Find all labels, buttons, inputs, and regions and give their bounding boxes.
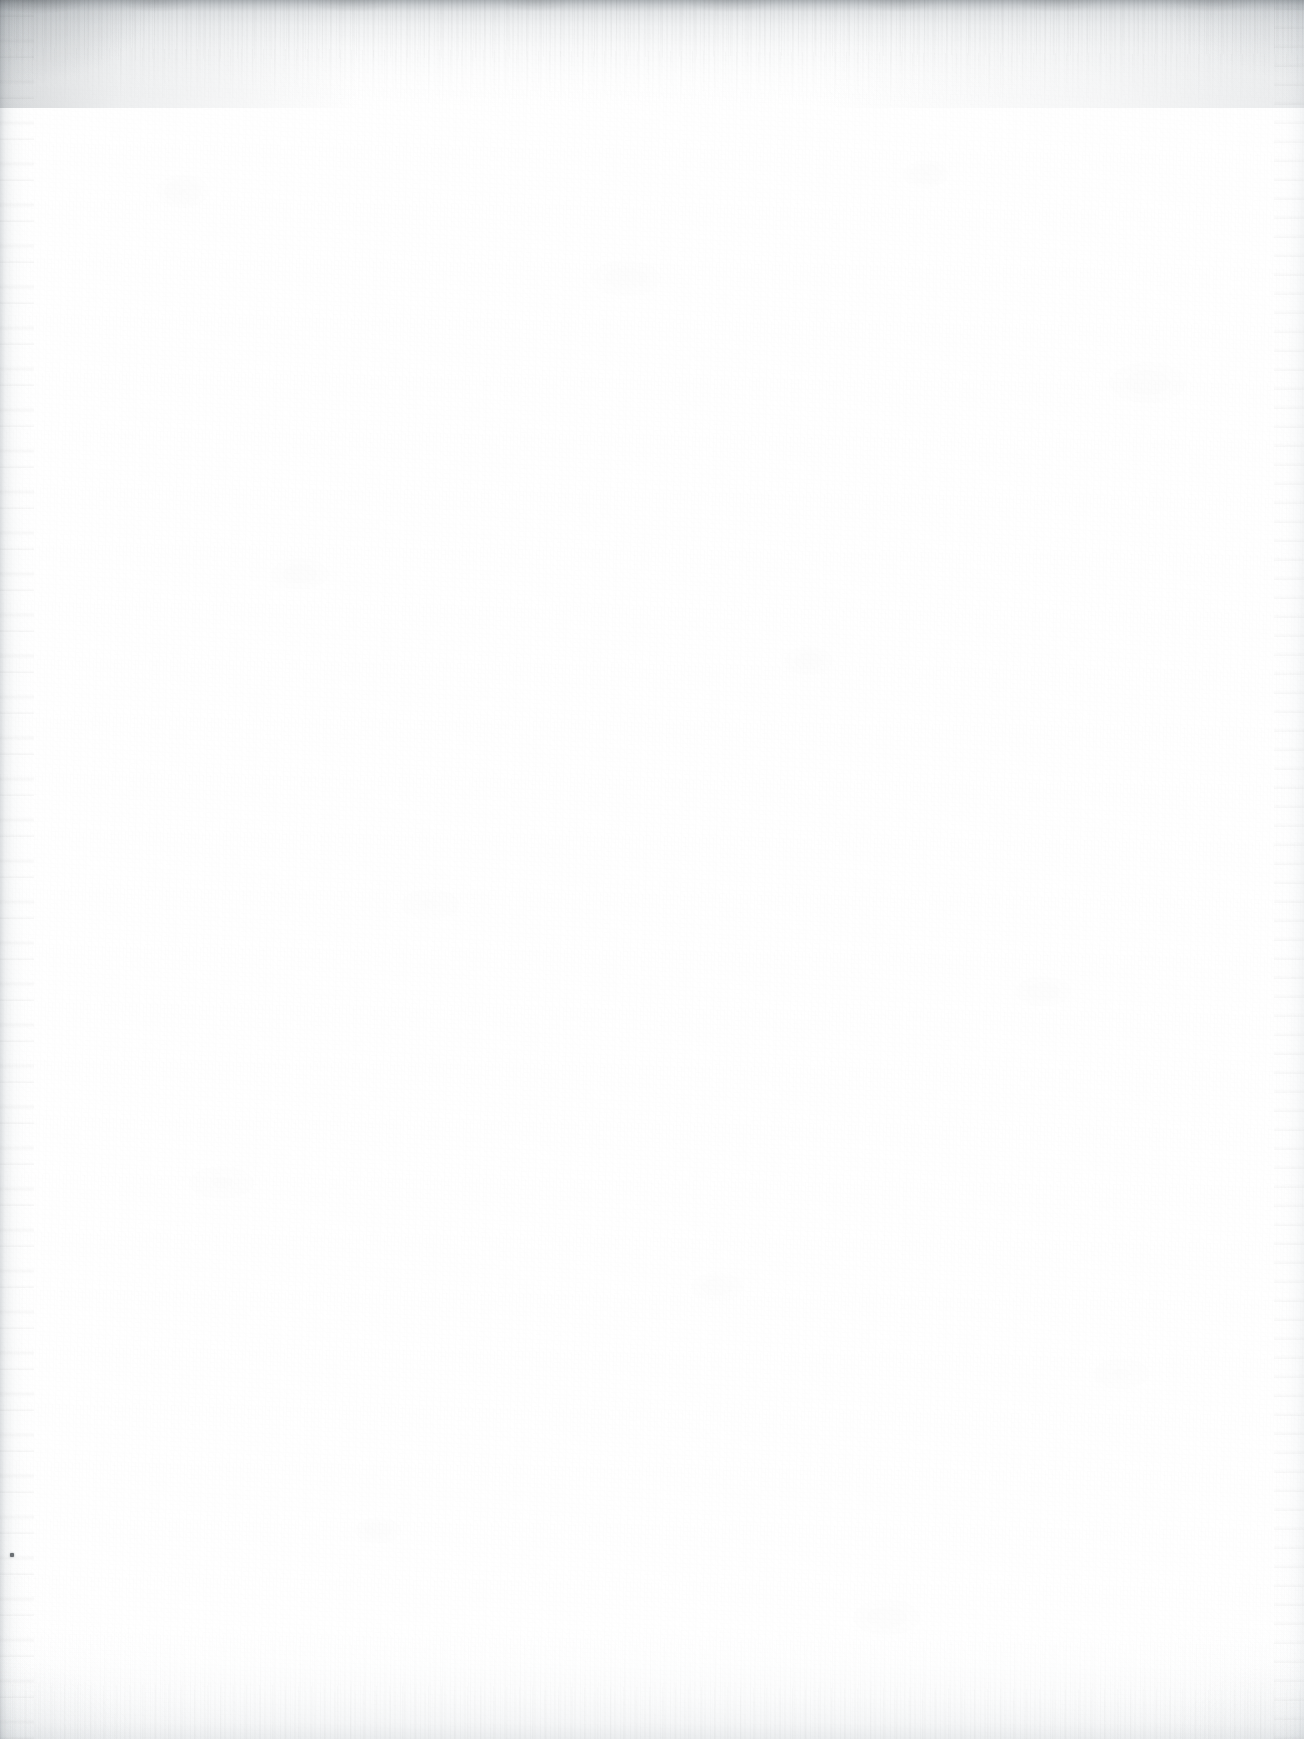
dust-speck xyxy=(10,1553,14,1557)
paper-mottle-texture xyxy=(0,0,1304,1739)
scanned-page xyxy=(0,0,1304,1739)
